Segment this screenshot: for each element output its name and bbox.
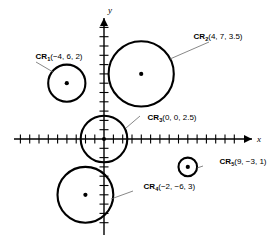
label-cr1-coords: (−4, 6, 2) [50, 52, 83, 61]
label-cr3-name: CR [148, 113, 160, 122]
label-cr3: CR3(0, 0, 2.5) [132, 113, 208, 123]
circle-cr1[interactable] [48, 65, 85, 102]
label-cr2: CR2(4, 7, 3.5) [178, 32, 254, 42]
y-axis: y [100, 5, 113, 235]
coordinate-plane-svg: x [0, 0, 274, 249]
label-cr2-name: CR [194, 32, 206, 41]
label-cr1-name: CR [36, 52, 48, 61]
circle-cr5[interactable] [179, 158, 198, 177]
x-axis: x [14, 134, 261, 144]
circle-cr5-center-dot [186, 165, 190, 169]
circle-coordinate-figure: x [0, 0, 274, 249]
y-axis-label: y [107, 5, 112, 15]
leader-line-cr1 [36, 62, 53, 72]
label-cr4-name: CR [144, 182, 156, 191]
label-cr5-coords: (9, −3, 1) [234, 157, 267, 166]
label-cr3-coords: (0, 0, 2.5) [162, 113, 197, 122]
circle-cr2-center-dot [139, 72, 143, 76]
label-cr5: CR5(9, −3, 1) [204, 157, 274, 167]
circle-cr1-center-dot [65, 81, 69, 85]
label-cr4-coords: (−2, −6, 3) [158, 182, 195, 191]
circle-cr4-center-dot [83, 193, 87, 197]
label-cr4: CR4(−2, −6, 3) [128, 182, 206, 192]
x-axis-label: x [256, 134, 261, 144]
label-cr1: CR1(−4, 6, 2) [20, 52, 94, 62]
leader-line-cr2 [170, 42, 209, 59]
label-cr5-name: CR [220, 157, 232, 166]
circle-cr2[interactable] [109, 41, 174, 106]
label-cr2-coords: (4, 7, 3.5) [208, 32, 243, 41]
circle-cr3-center-dot [102, 137, 106, 141]
